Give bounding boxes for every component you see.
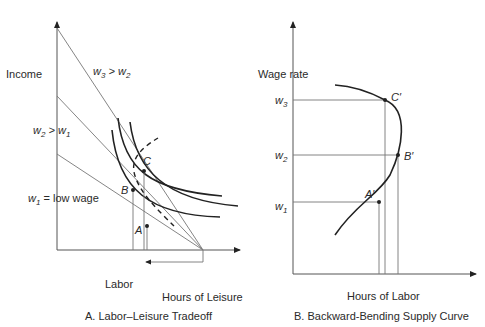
wage-rate-axis-label: Wage rate [258, 68, 308, 80]
label-b-prime: B′ [404, 150, 414, 162]
point-a-prime [377, 200, 381, 204]
point-a [145, 224, 149, 228]
tick-w1: w1 [275, 200, 287, 215]
panel-b-caption: B. Backward-Bending Supply Curve [294, 310, 469, 322]
tick-w3: w3 [275, 94, 288, 109]
tick-w2: w2 [275, 149, 288, 164]
label-w1-low-wage: w1 = low wage [28, 192, 99, 207]
hours-of-labor-label: Hours of Labor [347, 290, 420, 302]
point-c [142, 169, 146, 173]
label-a: A [134, 224, 142, 236]
budget-line-w2 [57, 96, 203, 250]
hours-of-leisure-label: Hours of Leisure [162, 291, 243, 303]
point-b [131, 188, 135, 192]
diagram-canvas: A B C Income w3 > w2 w2 > w1 w1 = low wa… [0, 0, 485, 327]
budget-line-w3 [57, 28, 203, 250]
supply-curve [335, 85, 401, 235]
point-c-prime [383, 98, 387, 102]
indifference-curve-2 [118, 118, 222, 196]
label-w2-gt-w1: w2 > w1 [33, 124, 70, 139]
label-w3-gt-w2: w3 > w2 [93, 65, 131, 80]
income-axis-label: Income [6, 68, 42, 80]
label-b: B [121, 184, 128, 196]
indifference-curve-1 [112, 130, 220, 217]
label-c: C [143, 155, 151, 167]
panel-a-caption: A. Labor–Leisure Tradeoff [85, 310, 213, 322]
label-a-prime: A′ [364, 188, 375, 200]
panel-a: A B C Income w3 > w2 w2 > w1 w1 = low wa… [6, 22, 243, 322]
label-c-prime: C′ [391, 91, 402, 103]
panel-b: A′ B′ C′ Wage rate w3 w2 w1 Hours of Lab… [258, 22, 476, 322]
labor-label: Labor [105, 278, 133, 290]
point-b-prime [396, 153, 400, 157]
